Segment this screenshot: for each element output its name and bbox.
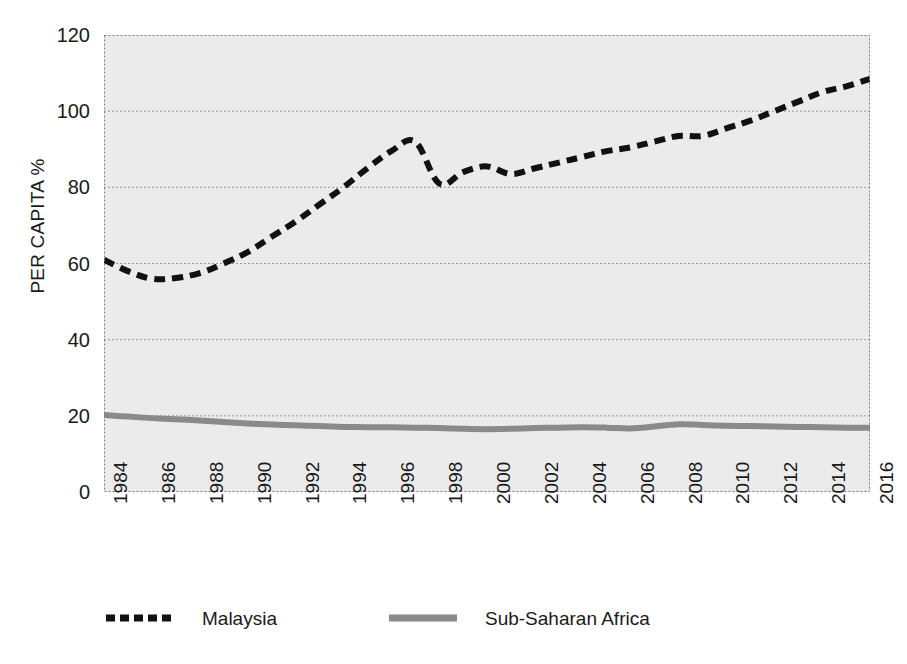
x-axis-tick-label: 1988 <box>207 462 226 504</box>
legend-label-malaysia: Malaysia <box>202 609 277 628</box>
x-axis-tick-label: 1994 <box>350 462 369 504</box>
plot-area <box>104 35 870 492</box>
x-axis-tick-label: 2000 <box>494 462 513 504</box>
x-axis-tick-label: 1996 <box>398 462 417 504</box>
chart-container: PER CAPITA % 120100806040200 19841986198… <box>0 0 907 664</box>
x-axis-tick-label: 1984 <box>111 462 130 504</box>
y-axis-tick-label: 60 <box>32 254 90 274</box>
y-axis-tick-labels: 120100806040200 <box>26 0 90 664</box>
y-axis-tick-label: 120 <box>32 25 90 45</box>
x-axis-tick-label: 1998 <box>446 462 465 504</box>
x-axis-tick-label: 2006 <box>638 462 657 504</box>
x-axis-tick-label: 1986 <box>159 462 178 504</box>
legend-label-sub-saharan-africa: Sub-Saharan Africa <box>485 609 650 628</box>
y-axis-tick-label: 0 <box>32 482 90 502</box>
x-axis-tick-label: 2002 <box>542 462 561 504</box>
y-axis-tick-label: 40 <box>32 330 90 350</box>
x-axis-tick-label: 1992 <box>303 462 322 504</box>
x-axis-tick-label: 2008 <box>686 462 705 504</box>
x-axis-tick-label: 2010 <box>733 462 752 504</box>
plot-svg <box>104 35 870 492</box>
y-axis-tick-label: 80 <box>32 177 90 197</box>
legend-item-sub-saharan-africa[interactable]: Sub-Saharan Africa <box>387 609 650 628</box>
gridlines <box>104 111 870 416</box>
x-axis-tick-label: 2004 <box>590 462 609 504</box>
series-line-sub-saharan-africa <box>104 415 870 429</box>
y-axis-tick-label: 100 <box>32 101 90 121</box>
series-lines <box>104 79 870 429</box>
legend-item-malaysia[interactable]: Malaysia <box>104 609 277 628</box>
series-line-malaysia <box>104 79 870 280</box>
legend-swatch-dashed-line-icon <box>104 611 176 625</box>
x-axis-tick-label: 2016 <box>877 462 896 504</box>
x-axis-tick-label: 1990 <box>255 462 274 504</box>
x-axis-tick-label: 2012 <box>781 462 800 504</box>
chart-legend: Malaysia Sub-Saharan Africa <box>104 598 870 638</box>
plot-border <box>105 36 870 492</box>
legend-swatch-solid-line-icon <box>387 611 459 625</box>
x-axis-tick-labels: 1984198619881990199219941996199820002002… <box>104 492 870 584</box>
y-axis-tick-label: 20 <box>32 406 90 426</box>
x-axis-tick-label: 2014 <box>829 462 848 504</box>
